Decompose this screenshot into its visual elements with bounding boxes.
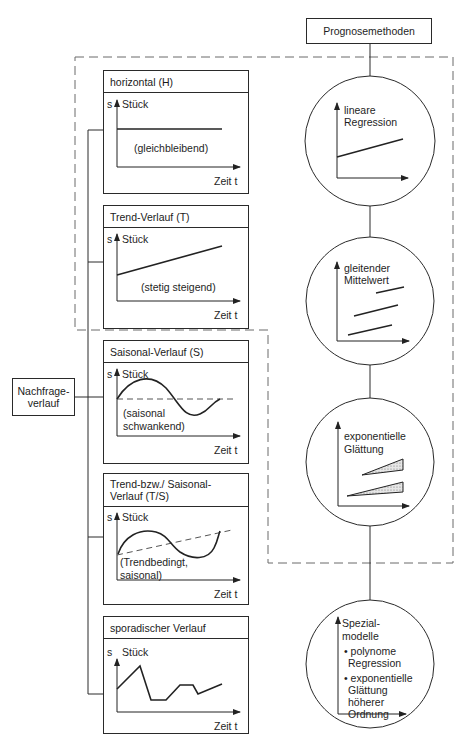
method-label-line2: Regression — [344, 116, 397, 128]
method-bullet-2-line4: Ordnung — [348, 708, 389, 720]
method-bullet-2-line3: höherer — [348, 696, 384, 708]
root-box-prognosemethoden: Prognosemethoden — [306, 18, 432, 44]
method-label-line2: Mittelwert — [344, 274, 389, 286]
axis-y-unit: Stück — [122, 511, 148, 523]
method-circle-moving-average — [306, 237, 434, 365]
axis-x-label: Zeit t — [214, 720, 237, 732]
pattern-box-trend-seasonal: Trend-bzw./ Saisonal- Verlauf (T/S) — [103, 473, 249, 605]
pattern-note: (stetig steigend) — [141, 281, 216, 293]
pattern-note-line2: schwankend) — [123, 420, 185, 432]
method-label-line1: gleitender — [344, 262, 390, 274]
method-bullet-2-line2: Glättung — [348, 684, 388, 696]
source-label-line1: Nachfrage- — [13, 385, 74, 397]
pattern-note: (gleichbleibend) — [134, 142, 208, 154]
pattern-title: horizontal (H) — [104, 71, 248, 93]
method-label-line2: modelle — [342, 630, 379, 642]
axis-y-label: s — [107, 368, 112, 380]
pattern-title-line2: Verlauf (T/S) — [110, 490, 242, 502]
axis-y-unit: Stück — [122, 98, 148, 110]
axis-y-unit: Stück — [122, 368, 148, 380]
pattern-note-line1: (Trendbedingt, — [120, 556, 188, 568]
pattern-title: sporadischer Verlauf — [104, 617, 248, 639]
method-label-line1: Spezial- — [342, 617, 380, 629]
axis-x-label: Zeit t — [214, 588, 237, 600]
method-label-line1: exponentielle — [344, 430, 406, 442]
source-box-nachfrageverlauf: Nachfrage- verlauf — [12, 378, 75, 416]
axis-y-unit: Stück — [122, 646, 148, 658]
axis-y-label: s — [107, 98, 112, 110]
root-label: Prognosemethoden — [307, 19, 431, 43]
method-label-line2: Glättung — [344, 443, 384, 455]
method-circle-linear-regression — [305, 76, 435, 206]
axis-x-label: Zeit t — [214, 444, 237, 456]
axis-y-label: s — [107, 233, 112, 245]
method-bullet-2-line1: • exponentielle — [344, 672, 412, 684]
axis-y-label: s — [107, 646, 112, 658]
pattern-box-sporadic: sporadischer Verlauf — [103, 616, 249, 734]
axis-y-label: s — [107, 511, 112, 523]
pattern-title-line1: Trend-bzw./ Saisonal- — [110, 478, 242, 490]
pattern-note-line1: (saisonal — [123, 407, 165, 419]
method-circle-exp-smoothing — [306, 398, 434, 526]
pattern-title-block: Trend-bzw./ Saisonal- Verlauf (T/S) — [104, 474, 248, 507]
method-bullet-1-line1: • polynome — [344, 645, 396, 657]
source-label-line2: verlauf — [13, 397, 74, 409]
pattern-title: Trend-Verlauf (T) — [104, 206, 248, 228]
pattern-note-line2: saisonal) — [120, 569, 162, 581]
axis-y-unit: Stück — [122, 233, 148, 245]
pattern-title: Saisonal-Verlauf (S) — [104, 341, 248, 363]
method-bullet-1-line2: Regression — [348, 657, 401, 669]
axis-x-label: Zeit t — [214, 175, 237, 187]
method-label-line1: lineare — [344, 104, 376, 116]
axis-x-label: Zeit t — [214, 309, 237, 321]
